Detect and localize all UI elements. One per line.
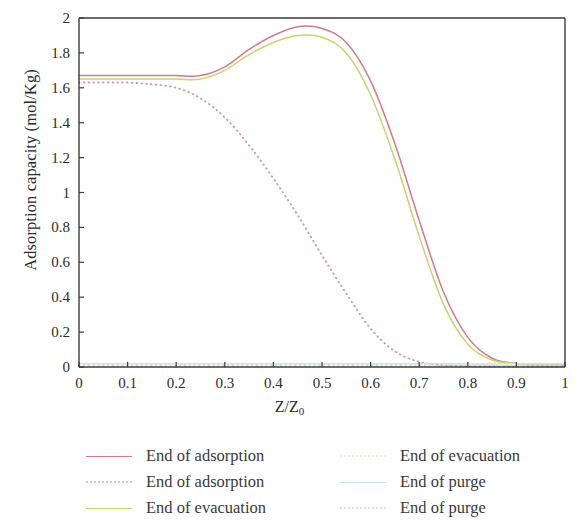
x-tick-label-5: 0.5 — [313, 375, 332, 391]
y-tick-label-2: 0.4 — [51, 289, 70, 305]
x-axis-label: Z/Z0 — [0, 398, 579, 417]
x-tick-label-4: 0.4 — [264, 375, 283, 391]
legend-swatch-icon — [86, 481, 132, 483]
x-tick-label-3: 0.3 — [215, 375, 234, 391]
legend-swatch-icon — [340, 482, 386, 483]
legend-item[interactable]: End of purge — [340, 495, 579, 521]
legend-label: End of evacuation — [146, 495, 266, 521]
plot-frame — [79, 18, 565, 367]
legend-label: End of purge — [400, 495, 486, 521]
y-tick-label-9: 1.8 — [51, 45, 70, 61]
line-chart-svg: 00.20.40.60.811.21.41.61.8200.10.20.30.4… — [0, 0, 579, 440]
x-tick-label-0: 0 — [75, 375, 83, 391]
y-tick-label-7: 1.4 — [51, 115, 70, 131]
legend-item[interactable]: End of adsorption — [86, 443, 336, 469]
x-axis-label-subscript: 0 — [299, 405, 305, 417]
x-axis-label-text: Z/Z — [275, 398, 299, 415]
legend-swatch-icon — [340, 455, 386, 457]
y-tick-label-1: 0.2 — [51, 324, 70, 340]
legend-item[interactable]: End of adsorption — [86, 469, 336, 495]
legend-swatch-icon — [86, 508, 132, 509]
legend-swatch-icon — [86, 456, 132, 457]
y-tick-label-0: 0 — [63, 359, 71, 375]
legend-label: End of adsorption — [146, 443, 264, 469]
x-tick-label-1: 0.1 — [118, 375, 137, 391]
y-tick-label-6: 1.2 — [51, 150, 70, 166]
legend-label: End of purge — [400, 469, 486, 495]
chart-legend: End of adsorptionEnd of evacuationEnd of… — [0, 443, 579, 521]
y-tick-label-3: 0.6 — [51, 254, 70, 270]
legend-swatch-icon — [340, 507, 386, 509]
x-tick-label-2: 0.2 — [167, 375, 186, 391]
legend-item[interactable]: End of evacuation — [86, 495, 336, 521]
x-tick-label-8: 0.8 — [458, 375, 477, 391]
y-axis-label: Adsorption capacity (mol/Kg) — [21, 5, 41, 335]
legend-label: End of evacuation — [400, 443, 520, 469]
figure-root: 00.20.40.60.811.21.41.61.8200.10.20.30.4… — [0, 0, 579, 521]
x-tick-label-10: 1 — [561, 375, 569, 391]
legend-item[interactable]: End of purge — [340, 469, 579, 495]
y-tick-label-4: 0.8 — [51, 219, 70, 235]
y-tick-label-8: 1.6 — [51, 80, 70, 96]
x-tick-label-9: 0.9 — [507, 375, 526, 391]
plot-background — [79, 18, 565, 367]
y-tick-label-10: 2 — [63, 10, 71, 26]
chart-area: 00.20.40.60.811.21.41.61.8200.10.20.30.4… — [0, 0, 579, 440]
legend-item[interactable]: End of evacuation — [340, 443, 579, 469]
x-tick-label-6: 0.6 — [361, 375, 380, 391]
x-tick-label-7: 0.7 — [410, 375, 429, 391]
legend-label: End of adsorption — [146, 469, 264, 495]
y-tick-label-5: 1 — [63, 185, 71, 201]
